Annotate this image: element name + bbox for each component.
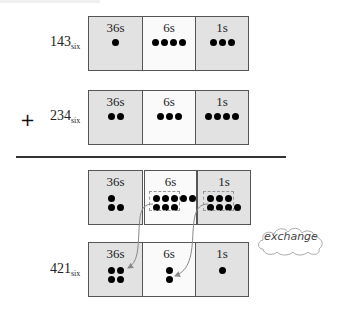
cell-1s: 1s [195,90,249,145]
cell-6s: 6s [142,242,196,297]
addend2-base: six [71,116,80,125]
header-6s: 6s [143,20,195,36]
header-1s: 1s [196,94,248,110]
cell-36s: 36s [88,242,143,297]
addend1-label: 143six [50,34,80,51]
cell-36s: 36s [88,16,143,71]
header-6s: 6s [143,246,195,262]
cell-1s: 1s [195,242,249,297]
result-label: 421six [50,261,80,278]
plus-operator: + [20,109,35,130]
addend1-base: six [71,42,80,51]
header-6s: 6s [145,174,196,190]
addend2-number: 234 [50,108,71,123]
addend2-label: 234six [50,108,80,125]
cell-1s: 1s [197,170,251,225]
cell-36s: 36s [88,170,143,225]
cell-6s: 6s [142,90,196,145]
exchange-annotation: exchange [255,230,327,243]
cell-1s: 1s [195,16,249,71]
result-number: 421 [50,261,71,276]
cell-36s: 36s [88,90,143,145]
sum-separator-line [16,156,286,158]
addend1-number: 143 [50,34,71,49]
result-base: six [71,269,80,278]
exchange-group-box [203,191,234,211]
header-36s: 36s [89,246,142,262]
header-6s: 6s [143,94,195,110]
header-1s: 1s [196,20,248,36]
header-36s: 36s [89,94,142,110]
cell-6s: 6s [142,16,196,71]
cell-6s: 6s [144,170,197,225]
header-36s: 36s [89,20,142,36]
header-1s: 1s [196,246,248,262]
header-36s: 36s [89,174,142,190]
header-1s: 1s [198,174,250,190]
top-edge-bar [0,0,100,3]
exchange-group-box [149,191,180,211]
counter-dot [112,39,119,46]
